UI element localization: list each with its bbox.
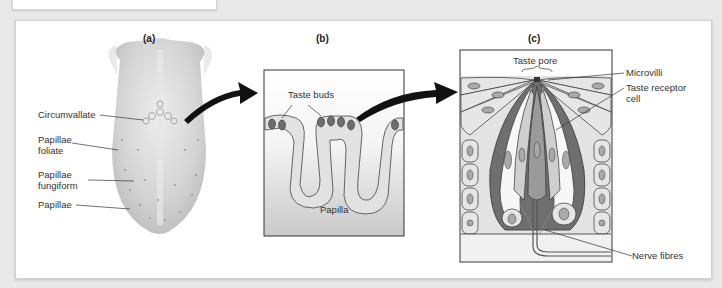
panel-label-a: (a): [143, 33, 155, 44]
label-papillae: Papillae: [38, 199, 72, 210]
label-taste-buds: Taste buds: [288, 89, 334, 100]
label-papilla: Papilla: [320, 204, 349, 215]
tongue-illustration: [72, 38, 212, 234]
label-papillae-fungiform-1: Papillae: [38, 169, 72, 180]
label-papillae-foliate-2: foliate: [38, 145, 63, 156]
label-taste-pore: Taste pore: [513, 55, 557, 66]
label-circumvallate: Circumvallate: [38, 109, 96, 120]
panel-label-b: (b): [316, 33, 329, 44]
figure-drawing: [0, 0, 722, 288]
label-papillae-fungiform-2: fungiform: [38, 180, 78, 191]
label-nerve-fibres: Nerve fibres: [632, 250, 683, 261]
panel-label-c: (c): [528, 33, 540, 44]
label-taste-receptor-1: Taste receptor: [626, 82, 686, 93]
label-microvilli: Microvilli: [626, 67, 662, 78]
label-papillae-foliate-1: Papillae: [38, 134, 72, 145]
label-taste-receptor-2: cell: [626, 93, 640, 104]
taste-bud-section: [460, 50, 632, 262]
